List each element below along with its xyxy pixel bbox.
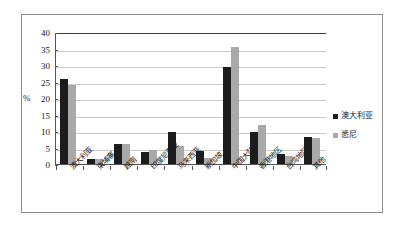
x-axis-tick-mark: [326, 166, 327, 170]
bar: [223, 67, 231, 164]
y-axis-tick-mark: [55, 33, 58, 34]
chart-legend: 澳大利亚悉尼: [333, 111, 383, 149]
legend-label: 澳大利亚: [341, 112, 373, 120]
y-axis-tick-label: 10: [41, 128, 50, 137]
legend-item[interactable]: 悉尼: [333, 130, 383, 140]
y-axis-tick-mark: [55, 132, 58, 133]
bar: [141, 152, 149, 164]
y-axis-tick-label: 20: [41, 95, 50, 104]
y-axis-tick-mark: [55, 83, 58, 84]
bar: [87, 159, 95, 164]
bar-group: [110, 34, 137, 164]
y-axis-tick-label: 0: [46, 161, 51, 170]
legend-swatch-icon: [333, 133, 338, 138]
plot-area: [55, 33, 326, 165]
bar-group: [219, 34, 246, 164]
x-axis-tick-labels: 澳大利亚柬埔寨越南印度尼西亚马来西亚新加坡中国大陆香港地区台湾地区其他: [55, 166, 326, 212]
legend-item[interactable]: 澳大利亚: [333, 111, 383, 121]
y-axis-tick-label: 15: [41, 112, 50, 121]
y-axis-tick-mark: [55, 149, 58, 150]
y-axis-tick-label: 30: [41, 62, 50, 71]
y-axis-tick-mark: [55, 99, 58, 100]
y-axis-tick-label: 25: [41, 79, 50, 88]
bar-group: [137, 34, 164, 164]
y-axis-tick-mark: [55, 165, 58, 166]
chart-figure: % 0510152025303540 澳大利亚柬埔寨越南印度尼西亚马来西亚新加坡…: [21, 14, 383, 213]
y-axis-tick-label: 40: [41, 29, 50, 38]
y-axis-tick-label: 5: [46, 145, 51, 154]
legend-swatch-icon: [333, 114, 338, 119]
y-axis-tick-labels: 0510152025303540: [22, 33, 52, 165]
bar-group: [56, 34, 83, 164]
bar: [60, 79, 68, 164]
y-axis-tick-mark: [55, 116, 58, 117]
bar: [231, 47, 239, 164]
bar: [114, 144, 122, 164]
y-axis-tick-label: 35: [41, 46, 50, 55]
bar: [68, 85, 76, 164]
y-axis-tick-mark: [55, 50, 58, 51]
legend-label: 悉尼: [341, 131, 357, 139]
y-axis-tick-mark: [55, 66, 58, 67]
